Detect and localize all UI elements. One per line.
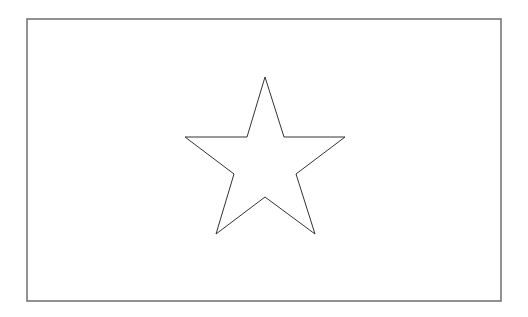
flag-outline-diagram	[0, 0, 528, 317]
